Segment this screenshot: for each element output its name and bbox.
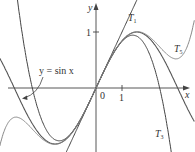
taylor-diagram: y x 0 1 1 y = sin x T1 T5 T3 xyxy=(0,0,195,152)
t5-curve xyxy=(0,20,194,146)
y-axis-arrow-icon xyxy=(94,3,99,10)
pointer-arrowhead-icon xyxy=(22,96,28,101)
t3-label: T3 xyxy=(155,128,164,140)
y-axis-label: y xyxy=(87,2,93,13)
t5-label: T5 xyxy=(174,43,183,55)
y-tick-label: 1 xyxy=(86,27,91,38)
t3-curve xyxy=(16,0,172,152)
y-axis xyxy=(93,3,99,152)
sin-curve-label: y = sin x xyxy=(39,65,74,76)
x-axis-label: x xyxy=(184,89,190,100)
t1-label: T1 xyxy=(128,12,137,24)
x-tick-label: 1 xyxy=(119,92,124,103)
x-axis xyxy=(8,85,190,91)
origin-label: 0 xyxy=(100,90,105,101)
